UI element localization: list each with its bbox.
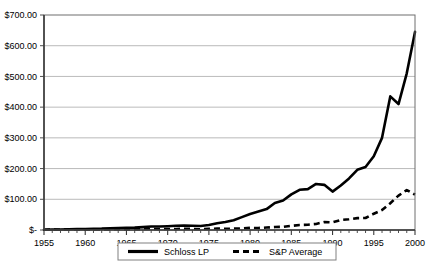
plot-area-border [44, 15, 415, 230]
x-axis-tick-label: 2000 [405, 238, 425, 248]
chart-legend: Schloss LPS&P Average [118, 243, 336, 260]
chart-container: $700.00$600.00$500.00$400.00$300.00$200.… [0, 0, 442, 266]
data-series [44, 32, 415, 230]
line-chart: $700.00$600.00$500.00$400.00$300.00$200.… [0, 0, 442, 266]
y-axis-tick-label: $700.00 [4, 10, 37, 20]
y-axis-tick-label: $300.00 [4, 133, 37, 143]
x-axis-tick-label: 1995 [364, 238, 384, 248]
axis-lines [44, 15, 415, 230]
y-axis-tick-label: $400.00 [4, 102, 37, 112]
x-axis-tick-label: 1960 [75, 238, 95, 248]
axes [44, 15, 415, 230]
y-axis-tick-label: $600.00 [4, 41, 37, 51]
legend-label-schloss-lp: Schloss LP [164, 247, 209, 257]
series-line-s-p-average [44, 190, 415, 230]
legend-label-s-p-average: S&P Average [269, 247, 322, 257]
series-line-schloss-lp [44, 32, 415, 230]
x-axis-tick-label: 1955 [34, 238, 54, 248]
gridlines [40, 15, 415, 230]
y-axis-tick-label: $500.00 [4, 72, 37, 82]
y-axis-labels: $700.00$600.00$500.00$400.00$300.00$200.… [4, 10, 37, 235]
y-axis-tick-label: $200.00 [4, 164, 37, 174]
y-axis-tick-label: $- [29, 225, 37, 235]
y-axis-tick-label: $100.00 [4, 194, 37, 204]
